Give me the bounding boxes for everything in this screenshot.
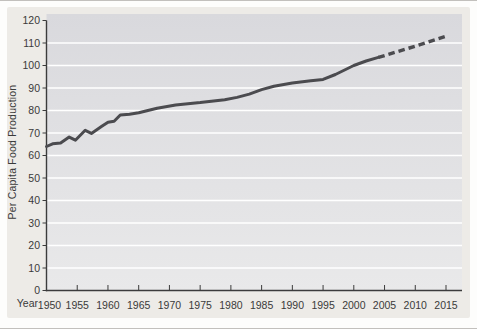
x-tick-label: 1990 xyxy=(281,299,305,311)
y-tick-label: 100 xyxy=(22,59,40,71)
y-tick-label: 0 xyxy=(34,284,40,296)
y-tick-label: 30 xyxy=(28,217,40,229)
y-tick-label: 90 xyxy=(28,82,40,94)
x-tick-label: 1970 xyxy=(158,299,182,311)
y-tick-label: 120 xyxy=(22,14,40,26)
y-tick-label: 60 xyxy=(28,149,40,161)
y-tick-label: 110 xyxy=(23,37,40,49)
plot-area xyxy=(47,14,463,291)
x-tick-label: 1980 xyxy=(219,299,243,311)
x-tick-label: 1965 xyxy=(127,299,151,311)
x-tick-label: 2010 xyxy=(404,299,428,311)
figure-panel: 0102030405060708090100110120195019551960… xyxy=(7,7,470,318)
x-tick-label: 1985 xyxy=(250,299,274,311)
x-tick-label: 1960 xyxy=(96,299,120,311)
page: 0102030405060708090100110120195019551960… xyxy=(0,0,477,329)
x-tick-label: 1950 xyxy=(38,299,62,311)
x-tick-label: 2015 xyxy=(434,299,458,311)
x-tick-label: 1955 xyxy=(66,299,90,311)
x-tick-label: 2000 xyxy=(342,299,366,311)
y-tick-label: 70 xyxy=(28,127,40,139)
y-axis-title: Per Capita Food Production xyxy=(6,85,18,220)
x-tick-label: 1995 xyxy=(311,299,335,311)
page-top-edge xyxy=(0,0,477,1)
y-tick-label: 20 xyxy=(28,239,40,251)
x-tick-label: 1975 xyxy=(188,299,212,311)
y-tick-label: 80 xyxy=(28,104,40,116)
y-tick-label: 40 xyxy=(28,194,40,206)
y-tick-label: 50 xyxy=(28,172,40,184)
y-tick-label: 10 xyxy=(28,262,40,274)
x-tick-label: 2005 xyxy=(373,299,397,311)
x-axis-year-label: Year xyxy=(9,297,38,309)
line-chart: 0102030405060708090100110120195019551960… xyxy=(7,7,470,318)
